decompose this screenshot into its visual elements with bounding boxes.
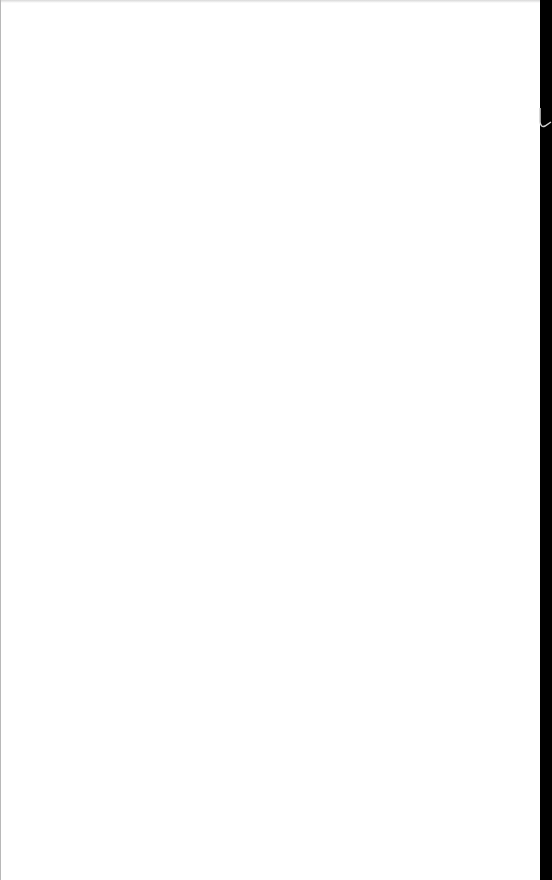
page-top-shadow <box>1 0 541 3</box>
page-curl-icon <box>538 108 552 130</box>
blank-page <box>0 0 540 880</box>
right-edge-strip <box>540 0 552 880</box>
